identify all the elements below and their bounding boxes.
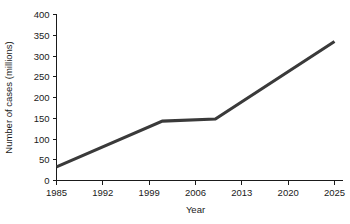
x-tick-label: 2013 (231, 187, 252, 198)
y-tick-label: 300 (34, 51, 50, 62)
y-axis-title: Number of cases (millions) (3, 41, 14, 153)
data-line-series (57, 41, 335, 166)
x-tick-label: 2025 (324, 187, 345, 198)
y-tick-label: 100 (34, 134, 50, 145)
y-tick-label: 50 (39, 154, 50, 165)
x-tick-label: 1999 (139, 187, 160, 198)
y-tick-label: 400 (34, 9, 50, 20)
y-tick-label: 150 (34, 113, 50, 124)
x-tick-label: 2006 (185, 187, 206, 198)
y-tick-label: 250 (34, 71, 50, 82)
x-axis-title: Year (186, 204, 205, 215)
x-tick-label: 1992 (92, 187, 113, 198)
chart-canvas: 0501001502002503003504001985199219992006… (0, 0, 350, 224)
y-tick-label: 0 (44, 175, 49, 186)
x-tick-label: 2020 (278, 187, 299, 198)
x-tick-label: 1985 (46, 187, 67, 198)
y-tick-label: 350 (34, 30, 50, 41)
line-chart: 0501001502002503003504001985199219992006… (0, 0, 350, 224)
y-tick-label: 200 (34, 92, 50, 103)
